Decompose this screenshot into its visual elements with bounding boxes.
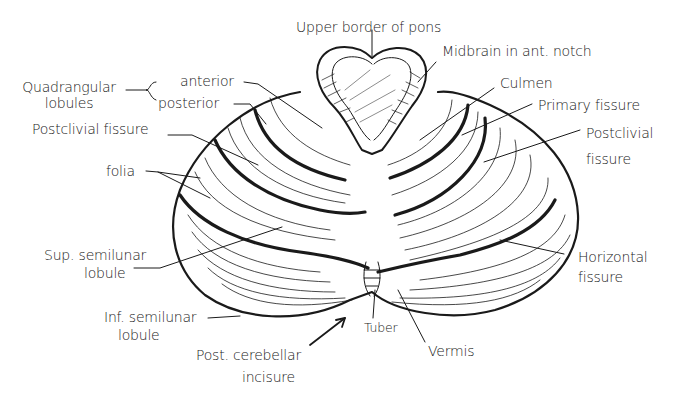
- label-folia: folia: [106, 164, 135, 179]
- label-postclivial-fissure-left: Postclivial fissure: [32, 122, 148, 137]
- label-vermis: Vermis: [428, 344, 474, 359]
- cerebellum-illustration: [0, 0, 684, 402]
- label-upper-border-of-pons: Upper border of pons: [296, 20, 441, 35]
- label-anterior: anterior: [180, 74, 234, 89]
- label-horizontal-fissure-line1: Horizontal: [578, 250, 647, 265]
- label-quadrangular-lobules-line1: Quadrangular: [14, 80, 124, 95]
- label-post-cerebellar-incisure-line1: Post. cerebellar: [196, 348, 301, 363]
- horizontal-fissure-left: [180, 195, 368, 268]
- folia-left: [188, 98, 352, 305]
- primary-fissure-right: [390, 105, 468, 178]
- label-sup-semilunar-lobule-line2: lobule: [84, 266, 126, 281]
- label-inf-semilunar-lobule-line1: Inf. semilunar: [104, 310, 196, 325]
- incisure-arrow: [310, 318, 345, 345]
- label-midbrain-in-ant-notch: Midbrain in ant. notch: [442, 44, 591, 59]
- label-inf-semilunar-lobule-line2: lobule: [118, 328, 160, 343]
- cerebellum-outline: [173, 92, 578, 317]
- midbrain-inner: [332, 57, 411, 140]
- label-postclivial-fissure-right-line1: Postclivial: [586, 126, 653, 141]
- label-culmen: Culmen: [500, 76, 552, 91]
- label-quadrangular-lobules-line2: lobules: [14, 96, 124, 111]
- label-tuber: Tuber: [364, 320, 397, 335]
- label-postclivial-fissure-right-line2: fissure: [586, 152, 631, 167]
- label-horizontal-fissure-line2: fissure: [578, 270, 623, 285]
- folia-right: [388, 100, 570, 305]
- postclivial-fissure-right: [395, 118, 485, 215]
- label-posterior: posterior: [158, 96, 219, 111]
- primary-fissure-left: [255, 110, 345, 180]
- label-sup-semilunar-lobule-line1: Sup. semilunar: [44, 248, 146, 263]
- label-post-cerebellar-incisure-line2: incisure: [242, 370, 295, 385]
- label-primary-fissure: Primary fissure: [538, 98, 640, 113]
- cerebellum-diagram: Upper border of pons Midbrain in ant. no…: [0, 0, 684, 402]
